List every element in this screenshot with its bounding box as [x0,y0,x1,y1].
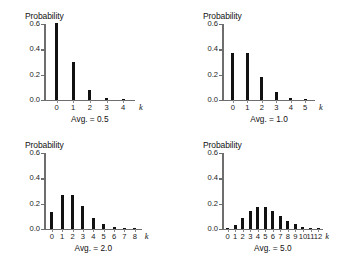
bar [275,92,278,100]
x-tick-label: 2 [88,103,92,112]
y-tick-mark [41,204,44,205]
x-tick-label: 5 [263,232,267,241]
bar [72,62,75,100]
bar [55,23,58,100]
x-tick-label: 0 [231,103,235,112]
average-annotation: Avg. = 1.0 [250,114,287,124]
y-axis-line [44,153,46,229]
x-tick-label: 5 [102,232,106,241]
y-tick-label: 0.2 [207,71,218,79]
x-tick-label: 6 [112,232,116,241]
x-tick-label: 1 [245,103,249,112]
chart-panel: Probability0.00.20.40.60123456789101112k… [178,129,356,258]
x-tick-label: 0 [50,232,54,241]
x-tick-label: 0 [54,103,58,112]
y-axis-line [222,24,224,100]
bar [271,211,274,229]
x-tick-label: 4 [121,103,125,112]
y-axis-line [222,153,224,229]
average-annotation: Avg. = 2.0 [75,243,112,253]
y-tick-label: 0.6 [207,149,218,157]
bar [92,218,95,229]
x-tick-label: 1 [233,232,237,241]
poisson-chart-grid: Probability0.00.20.40.601234kAvg. = 0.5P… [0,0,356,258]
y-tick-mark [219,153,222,154]
bar [264,207,267,229]
x-tick-label: 8 [133,232,137,241]
y-tick-mark [219,178,222,179]
x-tick-label: 8 [286,232,290,241]
y-tick-mark [219,229,222,230]
y-tick-mark [41,75,44,76]
plot-area: 0.00.20.40.6012345678kAvg. = 2.0 [44,153,154,229]
x-tick-label: 1 [71,103,75,112]
x-axis-label: k [319,102,323,112]
bar [260,77,263,100]
plot-area: 0.00.20.40.601234kAvg. = 0.5 [44,24,154,100]
plot-area: 0.00.20.40.60123456789101112kAvg. = 5.0 [222,153,332,229]
x-tick-label: 4 [289,103,293,112]
x-tick-label: 5 [303,103,307,112]
bar [246,53,249,100]
y-tick-label: 0.0 [207,96,218,104]
x-tick-label: 6 [271,232,275,241]
y-tick-mark [41,229,44,230]
average-annotation: Avg. = 5.0 [254,243,291,253]
x-tick-label: 4 [256,232,260,241]
y-tick-mark [41,153,44,154]
x-tick-label: 3 [104,103,108,112]
x-tick-label: 3 [248,232,252,241]
y-tick-mark [41,178,44,179]
x-tick-label: 2 [260,103,264,112]
y-tick-label: 0.2 [29,200,40,208]
x-tick-label: 7 [122,232,126,241]
x-tick-label: 3 [81,232,85,241]
y-tick-label: 0.0 [207,225,218,233]
bar [279,216,282,229]
y-tick-label: 0.2 [207,200,218,208]
y-tick-label: 0.6 [29,149,40,157]
x-tick-label: 3 [274,103,278,112]
y-tick-label: 0.4 [207,45,218,53]
bar [256,207,259,229]
y-tick-label: 0.6 [29,20,40,28]
y-axis-line [44,24,46,100]
x-tick-label: 4 [91,232,95,241]
bar [241,218,244,229]
chart-panel: Probability0.00.20.40.6012345678kAvg. = … [0,129,178,258]
y-tick-mark [219,49,222,50]
x-axis-label: k [139,102,143,112]
bar [286,221,289,229]
bar [249,211,252,229]
x-tick-label: 2 [70,232,74,241]
y-tick-mark [219,75,222,76]
y-tick-label: 0.0 [29,225,40,233]
y-tick-mark [219,100,222,101]
x-tick-label: 1 [60,232,64,241]
y-tick-mark [41,100,44,101]
chart-panel: Probability0.00.20.40.6012345kAvg. = 1.0 [178,0,356,129]
x-axis-label: k [145,231,149,241]
chart-panel: Probability0.00.20.40.601234kAvg. = 0.5 [0,0,178,129]
x-axis-line [222,100,315,101]
x-tick-label: 0 [226,232,230,241]
y-tick-mark [219,24,222,25]
average-annotation: Avg. = 0.5 [71,114,108,124]
y-tick-label: 0.4 [29,174,40,182]
y-tick-label: 0.4 [29,45,40,53]
y-tick-label: 0.2 [29,71,40,79]
y-tick-mark [219,204,222,205]
bar [50,212,53,229]
x-axis-label: k [325,231,329,241]
x-tick-label: 7 [278,232,282,241]
bar [81,206,84,229]
x-tick-label: 9 [293,232,297,241]
y-tick-mark [41,24,44,25]
bar [71,195,74,229]
plot-area: 0.00.20.40.6012345kAvg. = 1.0 [222,24,332,100]
y-tick-label: 0.0 [29,96,40,104]
bar [88,90,91,100]
y-tick-mark [41,49,44,50]
x-tick-label: 2 [241,232,245,241]
bar [231,53,234,100]
